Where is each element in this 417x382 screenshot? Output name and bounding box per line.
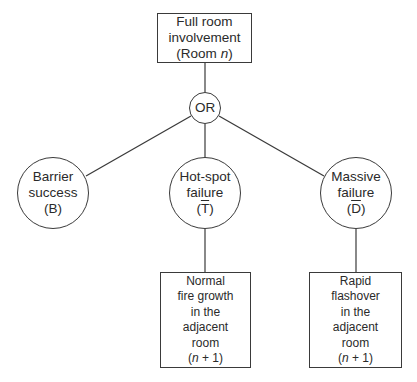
hotspot-line-1: Hot-spot (179, 169, 230, 185)
normal-room-index: (n + 1) (188, 351, 223, 367)
branch-barrier-success: Barrier success (B) (17, 157, 89, 229)
normal-line-5: room (192, 336, 219, 352)
link-or-to-massive (219, 116, 324, 176)
outcome-normal-fire-growth: Normal fire growth in the adjacent room … (160, 272, 251, 368)
root-line-2: involvement (168, 30, 240, 46)
root-paren-var: n (221, 46, 229, 61)
rapid-room-op: + 1 (349, 351, 369, 365)
hotspot-line-2: failure (187, 185, 224, 201)
normal-room-var: n (192, 351, 199, 365)
rapid-line-5: room (342, 336, 369, 352)
hotspot-symbol-letter: T (201, 201, 209, 216)
outcome-rapid-flashover: Rapid flashover in the adjacent room (n … (309, 272, 402, 368)
or-gate: OR (189, 92, 221, 124)
branch-hotspot-failure: Hot-spot failure (T) (169, 157, 241, 229)
barrier-symbol: (B) (44, 201, 62, 217)
rapid-line-3: in the (341, 305, 370, 321)
hotspot-symbol: (T) (196, 201, 213, 217)
normal-line-4: adjacent (183, 320, 228, 336)
root-paren-prefix: (Room (176, 46, 220, 61)
barrier-symbol-letter: B (48, 201, 57, 216)
or-gate-label: OR (195, 100, 215, 116)
root-line-1: Full room (176, 14, 232, 30)
massive-line-2: failure (338, 185, 375, 201)
rapid-room-index: (n + 1) (338, 351, 373, 367)
normal-line-2: fire growth (177, 289, 233, 305)
massive-symbol: (D) (347, 201, 366, 217)
branch-massive-failure: Massive failure (D) (320, 157, 392, 229)
massive-line-1: Massive (331, 169, 381, 185)
rapid-line-4: adjacent (333, 320, 378, 336)
barrier-line-2: success (29, 185, 78, 201)
normal-line-1: Normal (186, 274, 225, 290)
massive-symbol-letter: D (351, 201, 361, 216)
rapid-room-var: n (342, 351, 349, 365)
link-or-to-barrier (86, 116, 191, 176)
barrier-line-1: Barrier (33, 169, 74, 185)
rapid-line-1: Rapid (340, 274, 371, 290)
normal-line-3: in the (191, 305, 220, 321)
rapid-line-2: flashover (331, 289, 380, 305)
root-event-box: Full room involvement (Room n) (157, 13, 252, 63)
root-paren-suffix: ) (228, 46, 233, 61)
root-line-3: (Room n) (176, 46, 232, 62)
normal-room-op: + 1 (199, 351, 219, 365)
